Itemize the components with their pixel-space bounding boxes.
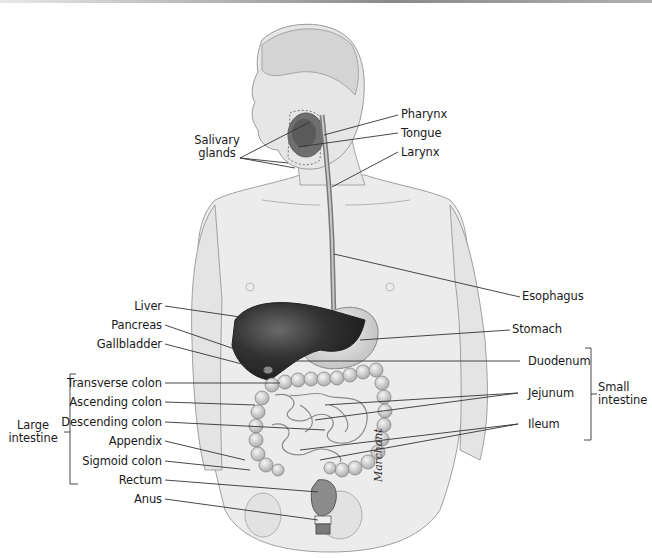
label-anus: Anus: [30, 493, 162, 506]
label-duodenum: Duodenum: [528, 355, 591, 368]
label-liver: Liver: [30, 300, 162, 313]
label-salivary-glands: Salivary glands: [192, 134, 242, 160]
label-jejunum: Jejunum: [528, 387, 574, 400]
label-gallbladder: Gallbladder: [30, 338, 162, 351]
artist-signature: Marchant: [372, 428, 385, 482]
label-small-intestine: Small intestine: [598, 381, 647, 407]
label-small-intestine-line2: intestine: [598, 394, 647, 407]
label-sigmoid-colon: Sigmoid colon: [30, 455, 162, 468]
label-ileum: Ileum: [528, 418, 560, 431]
label-rectum: Rectum: [30, 474, 162, 487]
label-tongue: Tongue: [401, 127, 441, 140]
label-transverse-colon: Transverse colon: [30, 377, 162, 390]
label-large-intestine-line2: intestine: [4, 432, 62, 445]
label-salivary-line2: glands: [192, 147, 242, 160]
label-larynx: Larynx: [401, 146, 439, 159]
label-ascending-colon: Ascending colon: [30, 396, 162, 409]
label-stomach: Stomach: [512, 323, 562, 336]
label-large-intestine: Large intestine: [4, 419, 62, 445]
head-icon: [252, 24, 364, 169]
label-esophagus: Esophagus: [522, 290, 584, 303]
label-pharynx: Pharynx: [401, 108, 447, 121]
label-pancreas: Pancreas: [30, 319, 162, 332]
